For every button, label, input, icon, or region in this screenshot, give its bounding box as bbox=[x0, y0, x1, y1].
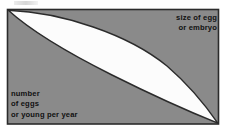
label-number-line-1: number bbox=[11, 89, 78, 99]
label-size-of-egg-or-embryo: size of egg or embryo bbox=[176, 13, 217, 34]
label-number-line-2: of eggs bbox=[11, 99, 78, 109]
label-size-line-2: or embryo bbox=[176, 23, 217, 33]
label-number-of-eggs-or-young: number of eggs or young per year bbox=[11, 89, 78, 120]
diagram-figure: size of egg or embryo number of eggs or … bbox=[0, 0, 227, 132]
label-number-line-3: or young per year bbox=[11, 110, 78, 120]
label-size-line-1: size of egg bbox=[176, 13, 217, 23]
